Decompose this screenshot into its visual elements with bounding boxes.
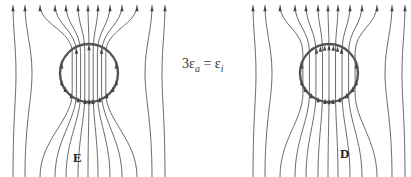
arrowhead-icon [87,45,90,51]
arrowhead-icon [86,6,89,12]
arrowhead-icon [135,6,138,12]
arrowhead-icon [100,48,103,54]
arrowhead-icon [263,6,266,12]
arrowhead-icon [251,6,254,12]
arrowhead-icon [76,6,79,12]
arrowhead-icon [319,46,322,52]
field-line [25,5,32,177]
arrowhead-icon [75,48,78,54]
subscript-a: a [195,63,200,74]
arrowhead-icon [336,6,339,12]
permittivity-equation: 3εa = εi [182,56,223,74]
field-line [13,5,16,177]
arrowhead-icon [293,6,296,12]
arrowhead-icon [278,6,281,12]
arrowhead-icon [150,6,153,12]
arrowhead-icon [323,45,326,51]
arrowhead-icon [360,6,363,12]
arrowhead-icon [96,6,99,12]
field-line [318,5,322,177]
e-field-panel [13,5,165,177]
field-line [355,5,377,177]
arrowhead-icon [390,6,393,12]
field-line [145,5,152,177]
field-line [253,5,256,177]
arrowhead-icon [23,6,26,12]
arrowhead-icon [64,6,67,12]
arrowhead-icon [332,45,335,51]
field-line [88,5,89,177]
field-line [336,5,338,177]
label-e-field: E [73,150,82,166]
field-line [162,5,165,177]
equation-coef: 3 [182,56,189,71]
arrowhead-icon [375,6,378,12]
arrowhead-icon [163,6,166,12]
arrowhead-icon [327,45,330,51]
equals-sign: = [203,56,211,71]
arrowhead-icon [53,6,56,12]
field-line [402,5,405,177]
field-line [328,5,329,177]
arrowhead-icon [348,6,351,12]
arrowhead-icon [120,6,123,12]
field-line [385,5,392,177]
subscript-i: i [221,63,224,74]
field-line [280,5,303,177]
arrowhead-icon [38,6,41,12]
arrowhead-icon [11,6,14,12]
label-d-field: D [340,146,349,162]
field-line [265,5,272,177]
arrowhead-icon [315,48,318,54]
arrowhead-icon [304,6,307,12]
arrowhead-icon [326,6,329,12]
arrowhead-icon [108,6,111,12]
field-line [97,5,110,177]
arrowhead-icon [336,46,339,52]
arrowhead-icon [403,6,406,12]
d-field-panel [253,5,405,177]
arrowhead-icon [316,6,319,12]
arrowhead-icon [340,48,343,54]
